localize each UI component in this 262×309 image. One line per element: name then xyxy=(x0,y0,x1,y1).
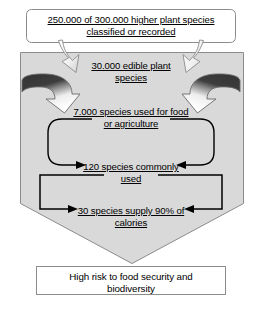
bottom-box-line1: High risk to food security and xyxy=(42,271,220,283)
stage-commonly-used-line1: 120 species commonly xyxy=(56,161,206,173)
funnel-diagram: 250.000 of 300.000 higher plant species … xyxy=(0,0,262,309)
bottom-box-line2: biodiversity xyxy=(42,283,220,295)
stage-edible-text: 30.000 edible plant species xyxy=(60,60,202,84)
stage-food-agriculture-line1: 7.000 species used for food xyxy=(46,106,216,118)
top-box-text: 250.000 of 300.000 higher plant species … xyxy=(30,14,232,38)
stage-calorie-supply-line2: calories xyxy=(56,217,206,229)
stage-calorie-supply-line1: 30 species supply 90% of xyxy=(56,205,206,217)
top-box-line2: classified or recorded xyxy=(30,26,232,38)
bottom-box-text: High risk to food security and biodivers… xyxy=(42,271,220,295)
stage-edible-line2: species xyxy=(60,72,202,84)
stage-commonly-used-line2: used xyxy=(56,173,206,185)
stage-food-agriculture-line2: or agriculture xyxy=(46,118,216,130)
stage-calorie-supply-text: 30 species supply 90% of calories xyxy=(56,205,206,229)
stage-edible-line1: 30.000 edible plant xyxy=(60,60,202,72)
diagram-shape-layer xyxy=(0,0,262,309)
stage-commonly-used-text: 120 species commonly used xyxy=(56,161,206,185)
stage-food-agriculture-text: 7.000 species used for food or agricultu… xyxy=(46,106,216,130)
top-box-line1: 250.000 of 300.000 higher plant species xyxy=(30,14,232,26)
